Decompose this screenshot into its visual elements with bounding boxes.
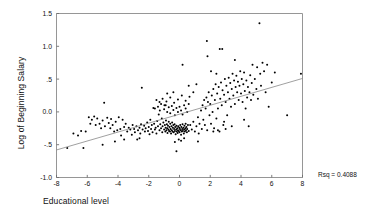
svg-text:6: 6 [270, 180, 274, 187]
x-axis-title: Educational level [43, 196, 109, 206]
plot-frame [57, 14, 303, 178]
rsq-annotation: Rsq = 0.4088 [318, 171, 357, 178]
svg-text:2: 2 [208, 180, 212, 187]
axis-ticks [57, 14, 303, 178]
svg-text:-2: -2 [146, 180, 152, 187]
svg-text:8: 8 [301, 180, 305, 187]
svg-text:-1.0: -1.0 [40, 174, 52, 181]
svg-text:-4: -4 [115, 180, 121, 187]
y-axis-title: Log of Beginning Salary [16, 38, 26, 168]
svg-text:4: 4 [239, 180, 243, 187]
scatter-chart: -8-6-4-202468-1.0-.50.0.51.01.5 Log of B… [0, 0, 380, 223]
svg-text:0: 0 [178, 180, 182, 187]
svg-text:0.0: 0.0 [43, 108, 53, 115]
svg-text:1.5: 1.5 [43, 10, 53, 17]
plot-area: -8-6-4-202468-1.0-.50.0.51.01.5 [0, 0, 380, 223]
svg-text:.5: .5 [46, 76, 52, 83]
data-points [66, 22, 302, 152]
axis-tick-labels: -8-6-4-202468-1.0-.50.0.51.01.5 [40, 10, 304, 187]
svg-text:-6: -6 [84, 180, 90, 187]
svg-text:-.5: -.5 [44, 141, 52, 148]
svg-text:1.0: 1.0 [43, 43, 53, 50]
svg-text:-8: -8 [53, 180, 59, 187]
